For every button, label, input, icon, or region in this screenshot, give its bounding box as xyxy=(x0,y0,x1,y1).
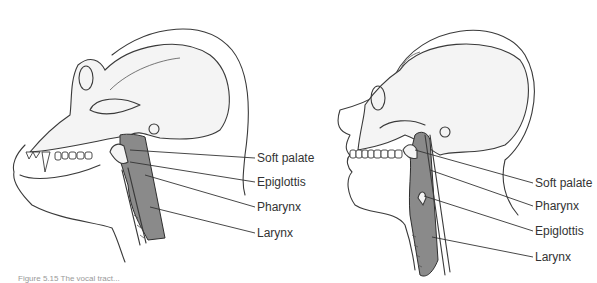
diagram-canvas xyxy=(0,0,597,283)
chimp-leader-larynx xyxy=(150,207,255,233)
chimp-label-epiglottis: Epiglottis xyxy=(257,176,306,188)
chimp-label-soft-palate: Soft palate xyxy=(257,152,314,164)
chimp-jaw xyxy=(20,165,100,178)
human-head xyxy=(338,30,534,276)
human-label-soft-palate: Soft palate xyxy=(535,177,592,189)
figure-caption: Figure 5.15 The vocal tract... xyxy=(18,274,120,283)
chimp-airway xyxy=(120,134,165,240)
chimp-head xyxy=(13,29,255,262)
chimp-label-larynx: Larynx xyxy=(257,227,293,239)
human-teeth xyxy=(350,150,402,158)
human-label-pharynx: Pharynx xyxy=(535,200,579,212)
human-skull xyxy=(358,44,528,155)
chimp-face-outline xyxy=(13,145,125,262)
chimp-teeth xyxy=(26,152,92,172)
human-label-epiglottis: Epiglottis xyxy=(535,225,584,237)
human-leader-pharynx xyxy=(430,170,533,206)
human-label-larynx: Larynx xyxy=(535,251,571,263)
chimp-label-pharynx: Pharynx xyxy=(257,201,301,213)
human-soft-palate-shape xyxy=(403,145,417,159)
